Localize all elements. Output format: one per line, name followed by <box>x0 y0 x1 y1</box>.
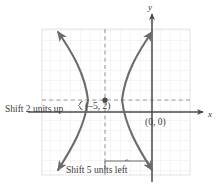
origin-point-label: (0, 0) <box>145 118 166 128</box>
grid-area <box>42 29 190 175</box>
x-axis-label: x <box>208 110 212 119</box>
shift-up-annotation-label: Shift 2 units up <box>5 105 63 115</box>
coordinate-plane-svg <box>0 0 220 189</box>
graph-figure: y x (–5, 2) (0, 0) Shift 2 units up Shif… <box>0 0 220 189</box>
y-axis-label: y <box>148 3 152 12</box>
shift-left-annotation-label: Shift 5 units left <box>66 166 128 176</box>
center-point-label: (–5, 2) <box>85 102 110 112</box>
